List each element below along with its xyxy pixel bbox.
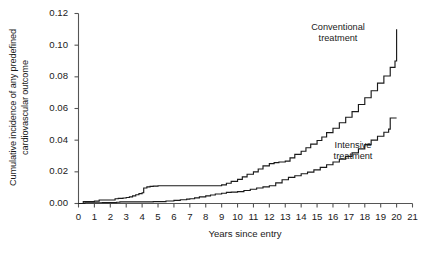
series-label-intensive-line2: treatment xyxy=(334,151,373,161)
chart-figure: Cumulative incidence of any predefined c… xyxy=(0,0,421,255)
series-line-conventional xyxy=(79,29,397,203)
series-label-conventional-line2: treatment xyxy=(319,33,358,43)
series-group xyxy=(79,29,397,203)
series-label-conventional-line1: Conventional xyxy=(311,22,365,32)
series-label-conventional: Conventional treatment xyxy=(296,22,380,44)
series-label-intensive-line1: Intensive xyxy=(335,140,372,150)
series-label-intensive: Intensive treatment xyxy=(318,140,388,162)
x-axis-label: Years since entry xyxy=(78,228,412,239)
